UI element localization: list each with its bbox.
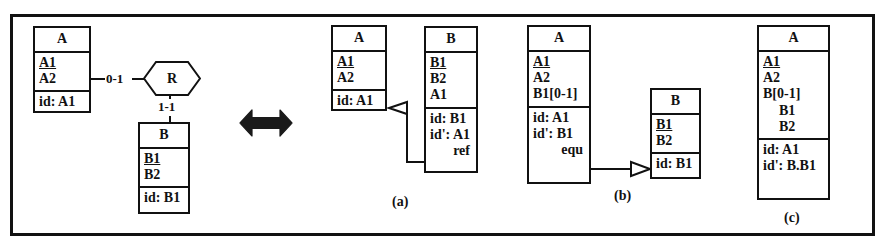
attribute-section: A1 A2 — [35, 53, 89, 92]
identifier-section: id: B1 — [140, 188, 188, 209]
entity-name: A — [35, 28, 89, 53]
attribute-section: B1 B2 — [652, 115, 699, 154]
identifier-section: id: A1 id': B.B1 — [759, 140, 828, 177]
option-a-entity-b: B B1 B2 A1 id: B1 id': A1 ref — [424, 26, 478, 173]
source-entity-a: A A1 A2 id: A1 — [33, 26, 91, 113]
identifier: id: A1 — [337, 93, 381, 109]
option-c-entity-a: A A1 A2 B[0-1] B1 B2 id: A1 id': B.B1 — [757, 25, 830, 200]
identifier: id: A1 — [763, 142, 824, 158]
caption-option-c: (c) — [784, 210, 800, 226]
attribute-section: A1 A2 B1[0-1] — [529, 52, 589, 108]
attribute: B1 — [763, 103, 824, 119]
attribute: A2 — [337, 70, 381, 86]
identifier-section: id: B1 id': A1 ref — [426, 109, 476, 163]
attribute: B2 — [430, 71, 472, 87]
attribute: A1 — [763, 54, 824, 70]
identifier-section: id: B1 — [652, 154, 699, 175]
caption-option-b: (b) — [614, 188, 631, 204]
identifier: id: B1 — [656, 156, 695, 172]
identifier-section: id: A1 — [333, 91, 385, 112]
er-transformation-figure: A A1 A2 id: A1 0-1 R 1-1 B B1 B2 id: B1 — [0, 0, 887, 248]
attribute: A1 — [39, 55, 85, 71]
attribute: B2 — [763, 119, 824, 135]
option-b-entity-a: A A1 A2 B1[0-1] id: A1 id': B1 equ — [527, 25, 591, 184]
identifier: id: A1 — [39, 94, 85, 110]
entity-name: B — [426, 28, 476, 53]
identifier-section: id: A1 — [35, 92, 89, 113]
entity-name: A — [333, 27, 385, 52]
attribute: B1 — [656, 117, 695, 133]
identifier: id': B.B1 — [763, 158, 824, 174]
cardinality-a: 0-1 — [105, 71, 124, 87]
identifier: id: B1 — [430, 111, 472, 127]
identifier: id': A1 — [430, 127, 472, 143]
entity-name: B — [140, 124, 188, 149]
identifier-section: id: A1 id': B1 equ — [529, 108, 589, 162]
attribute: B1 — [430, 55, 472, 71]
attribute: B1[0-1] — [533, 86, 585, 102]
identifier: id: A1 — [533, 110, 585, 126]
identifier: id: B1 — [144, 190, 184, 206]
caption-option-a: (a) — [392, 194, 408, 210]
entity-name: B — [652, 90, 699, 115]
connector-option-b-equ — [589, 157, 653, 181]
attribute: A1 — [337, 54, 381, 70]
attribute-section: A1 A2 — [333, 52, 385, 91]
attribute: A1 — [533, 54, 585, 70]
relationship-name: R — [143, 61, 201, 96]
attribute-section: B1 B2 — [140, 149, 188, 188]
identifier: id': B1 — [533, 126, 585, 142]
attribute: A2 — [763, 70, 824, 86]
option-b-entity-b: B B1 B2 id: B1 — [650, 88, 701, 179]
attribute-section: A1 A2 B[0-1] B1 B2 — [759, 52, 828, 140]
source-entity-b: B B1 B2 id: B1 — [138, 122, 190, 214]
attribute: A2 — [533, 70, 585, 86]
attribute-section: B1 B2 A1 — [426, 53, 476, 109]
entity-name: A — [529, 27, 589, 52]
cardinality-b: 1-1 — [157, 99, 176, 115]
source-relationship-r: R — [143, 61, 201, 96]
attribute: A2 — [39, 71, 85, 87]
double-headed-arrow-icon — [238, 108, 294, 138]
constraint: ref — [430, 143, 472, 159]
constraint: equ — [533, 142, 585, 158]
attribute: B[0-1] — [763, 86, 824, 102]
entity-name: A — [759, 27, 828, 52]
attribute: B2 — [144, 167, 184, 183]
option-a-entity-a: A A1 A2 id: A1 — [331, 25, 387, 111]
attribute: B1 — [144, 151, 184, 167]
attribute: A1 — [430, 87, 472, 103]
attribute: B2 — [656, 133, 695, 149]
